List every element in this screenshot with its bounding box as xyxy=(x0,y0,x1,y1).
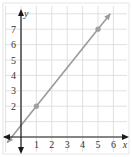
y-tick-label: 3 xyxy=(11,85,16,96)
x-tick-label: 1 xyxy=(34,139,39,150)
plot-background xyxy=(3,3,129,154)
y-axis-label: y xyxy=(23,8,29,19)
x-tick-label: 2 xyxy=(49,139,54,150)
y-tick-label: 7 xyxy=(11,24,16,35)
y-tick-label: 6 xyxy=(11,39,16,50)
x-tick-label: 4 xyxy=(80,139,85,150)
data-point xyxy=(34,104,39,109)
y-tick-label: 5 xyxy=(11,55,16,66)
coordinate-plane: 123456234567xy xyxy=(0,0,132,157)
x-tick-label: 3 xyxy=(65,139,70,150)
data-point xyxy=(95,27,100,32)
graph-frame: 123456234567xy xyxy=(0,0,132,157)
x-axis-label: x xyxy=(122,139,128,150)
x-tick-label: 6 xyxy=(111,139,116,150)
y-tick-label: 4 xyxy=(11,70,16,81)
x-tick-label: 5 xyxy=(96,139,101,150)
y-tick-label: 2 xyxy=(11,101,16,112)
